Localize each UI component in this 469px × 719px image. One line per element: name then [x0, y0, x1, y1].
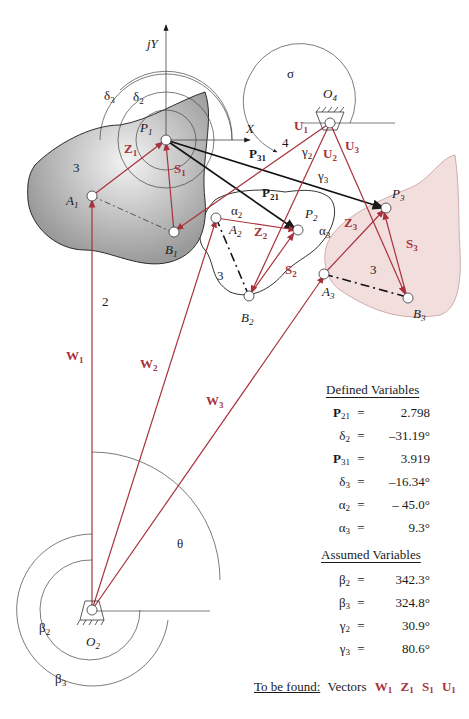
sigma-arc: [250, 44, 355, 123]
svg-text:δ3: δ3: [104, 88, 115, 105]
svg-text:S2: S2: [285, 262, 297, 279]
svg-text:W3: W3: [206, 393, 224, 410]
svg-text:P3: P3: [391, 186, 405, 203]
svg-text:γ3: γ3: [317, 168, 329, 185]
svg-text:γ2: γ2: [301, 144, 312, 161]
svg-text:3: 3: [370, 262, 377, 277]
svg-text:O2: O2: [86, 634, 100, 651]
synthesis-diagram: jY X δ3 δ2 P1 3 A1 B1 Z1 S1 σ O4 U1 U2 U…: [0, 0, 469, 719]
beta-arcs: [17, 452, 220, 686]
svg-text:3: 3: [73, 160, 80, 175]
svg-text:δ2: δ2: [133, 89, 144, 106]
svg-text:σ: σ: [287, 66, 294, 81]
svg-text:U3: U3: [345, 138, 359, 155]
svg-text:O4: O4: [323, 86, 337, 103]
svg-text:W1: W1: [66, 348, 84, 365]
svg-text:2: 2: [102, 294, 109, 309]
svg-text:jY: jY: [145, 36, 160, 51]
svg-text:A3: A3: [321, 284, 335, 301]
svg-text:B2: B2: [241, 310, 254, 327]
svg-text:X: X: [245, 121, 255, 136]
svg-text:β3: β3: [55, 671, 67, 688]
svg-text:P21: P21: [262, 185, 279, 202]
svg-text:W2: W2: [140, 356, 158, 373]
svg-text:θ: θ: [177, 536, 183, 551]
svg-text:U2: U2: [323, 146, 337, 163]
svg-text:4: 4: [282, 135, 289, 150]
svg-text:P31: P31: [249, 146, 266, 163]
svg-text:3: 3: [217, 268, 224, 283]
svg-text:β2: β2: [39, 620, 50, 637]
svg-text:U1: U1: [294, 118, 308, 135]
